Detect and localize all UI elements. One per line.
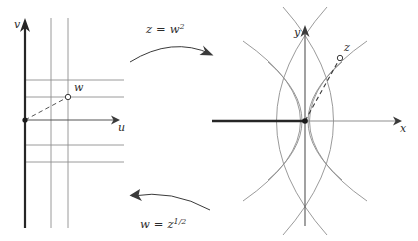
backward-eq-exponent: 1/2 xyxy=(174,217,187,226)
w-plane-dashed-segment xyxy=(25,97,68,120)
forward-eq-operator: = xyxy=(156,22,166,36)
forward-map-equation: z=w2 xyxy=(145,22,185,36)
u-axis-label: u xyxy=(118,121,125,134)
x-axis-label: x xyxy=(400,122,407,135)
forward-map-arrow xyxy=(130,46,214,63)
forward-eq-rhs: w xyxy=(170,22,180,36)
backward-eq-lhs: w xyxy=(140,217,150,231)
forward-arrow-curve xyxy=(130,47,211,62)
v-axis-label: v xyxy=(14,18,21,31)
backward-map-equation: w=z1/2 xyxy=(140,217,186,231)
z-point-label: z xyxy=(343,41,350,54)
conformal-map-figure: u v w z=w2 xyxy=(0,0,418,241)
y-axis-label: y xyxy=(293,26,301,39)
x-axis xyxy=(305,117,402,126)
w-plane-vertical-gridlines xyxy=(51,18,68,228)
w-point-marker xyxy=(65,94,70,99)
backward-map-arrow xyxy=(130,189,211,210)
w-plane-panel: u v w xyxy=(14,18,125,228)
forward-eq-lhs: z xyxy=(145,22,153,36)
mapping-arrows: z=w2 w=z1/2 xyxy=(130,22,214,231)
figure-canvas: u v w z=w2 xyxy=(0,0,418,241)
v-axis xyxy=(20,18,30,228)
backward-eq-operator: = xyxy=(154,217,164,231)
z-plane-origin-dot xyxy=(302,118,308,124)
z-plane-panel: x y z xyxy=(212,7,407,235)
w-plane-origin-dot xyxy=(22,117,27,122)
u-axis xyxy=(25,116,120,125)
w-point-label: w xyxy=(74,81,84,94)
backward-arrow-curve xyxy=(132,194,210,210)
z-point-marker xyxy=(337,55,342,60)
forward-eq-exponent: 2 xyxy=(179,22,185,31)
